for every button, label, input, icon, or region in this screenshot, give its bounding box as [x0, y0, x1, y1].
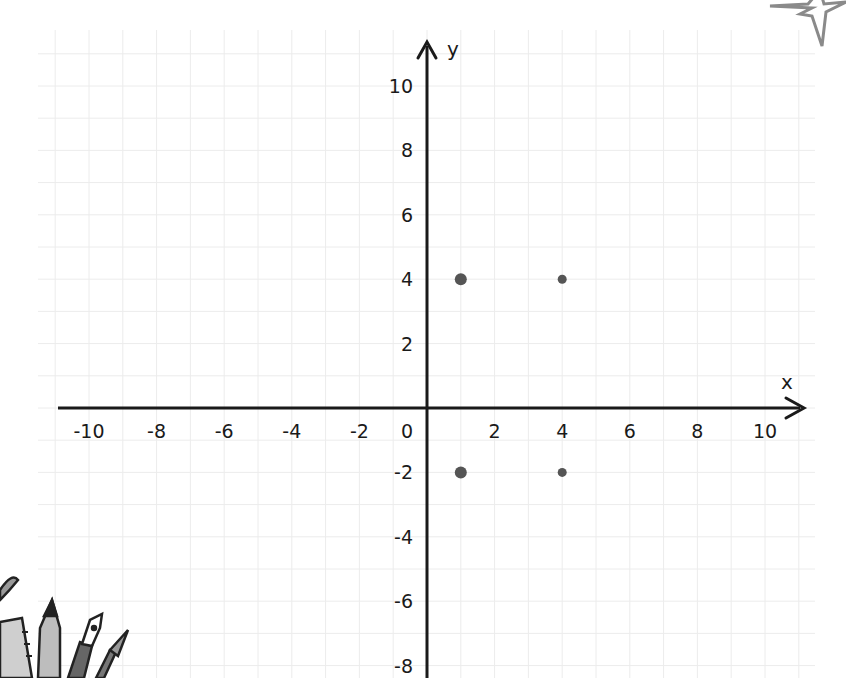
x-tick-label: 4: [556, 420, 568, 442]
y-axis-label: y: [447, 37, 459, 61]
coordinate-plane: xy -10-8-6-4-20246810108642-2-4-6-8: [0, 0, 846, 678]
x-tick-label: 0: [401, 420, 413, 442]
x-axis-label: x: [781, 370, 793, 394]
x-tick-label: -2: [350, 420, 369, 442]
sparkle-icon: [770, 0, 846, 46]
data-point: [558, 468, 567, 477]
y-tick-label: -4: [394, 526, 413, 548]
x-tick-label: 2: [489, 420, 501, 442]
data-point: [455, 273, 467, 285]
x-tick-label: 8: [691, 420, 703, 442]
y-tick-label: 8: [401, 139, 413, 161]
y-tick-label: 4: [401, 268, 413, 290]
x-tick-label: 10: [753, 420, 777, 442]
stationery-icon: [0, 578, 128, 678]
x-tick-label: -10: [73, 420, 104, 442]
y-tick-label: -2: [394, 461, 413, 483]
x-tick-label: -4: [282, 420, 301, 442]
y-tick-label: 10: [389, 75, 413, 97]
y-tick-label: -8: [394, 655, 413, 677]
x-tick-label: 6: [624, 420, 636, 442]
data-point: [558, 275, 567, 284]
y-tick-label: -6: [394, 590, 413, 612]
x-tick-label: -6: [215, 420, 234, 442]
axes: xy: [58, 37, 804, 678]
y-tick-label: 6: [401, 204, 413, 226]
x-tick-label: -8: [147, 420, 166, 442]
data-point: [455, 466, 467, 478]
y-tick-label: 2: [401, 333, 413, 355]
